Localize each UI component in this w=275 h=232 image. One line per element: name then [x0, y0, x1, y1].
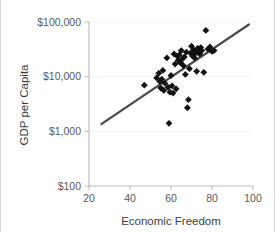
y-tick-label: $10,000: [43, 70, 81, 82]
y-tick-label: $1,000: [49, 125, 81, 137]
y-tick-labels: $100$1,000$10,000$100,000: [37, 16, 81, 192]
y-tick-label: $100: [58, 180, 82, 192]
x-axis-label: Economic Freedom: [121, 215, 221, 227]
y-axis-label: GDP per Capita: [18, 64, 30, 146]
gridlines: [89, 22, 253, 186]
x-tick-label: 100: [244, 192, 262, 204]
x-tick-labels: 20406080100: [83, 192, 262, 204]
y-tick-label: $100,000: [37, 16, 81, 28]
axis-lines: [89, 22, 253, 186]
data-point: [164, 55, 171, 62]
x-tick-label: 60: [165, 192, 177, 204]
trend-line-segment: [101, 25, 249, 125]
data-point: [184, 104, 191, 111]
data-point: [141, 82, 148, 89]
trend-line: [101, 25, 249, 125]
x-tick-marks: [89, 186, 253, 190]
x-tick-label: 80: [206, 192, 218, 204]
data-point: [200, 69, 207, 76]
data-point: [166, 120, 173, 127]
data-point: [202, 27, 209, 34]
data-point: [185, 96, 192, 103]
chart-figure: 20406080100 $100$1,000$10,000$100,000 Ec…: [0, 0, 275, 232]
x-tick-label: 20: [83, 192, 95, 204]
scatter-plot: 20406080100 $100$1,000$10,000$100,000 Ec…: [1, 0, 275, 232]
x-tick-label: 40: [124, 192, 136, 204]
data-point: [193, 68, 200, 75]
